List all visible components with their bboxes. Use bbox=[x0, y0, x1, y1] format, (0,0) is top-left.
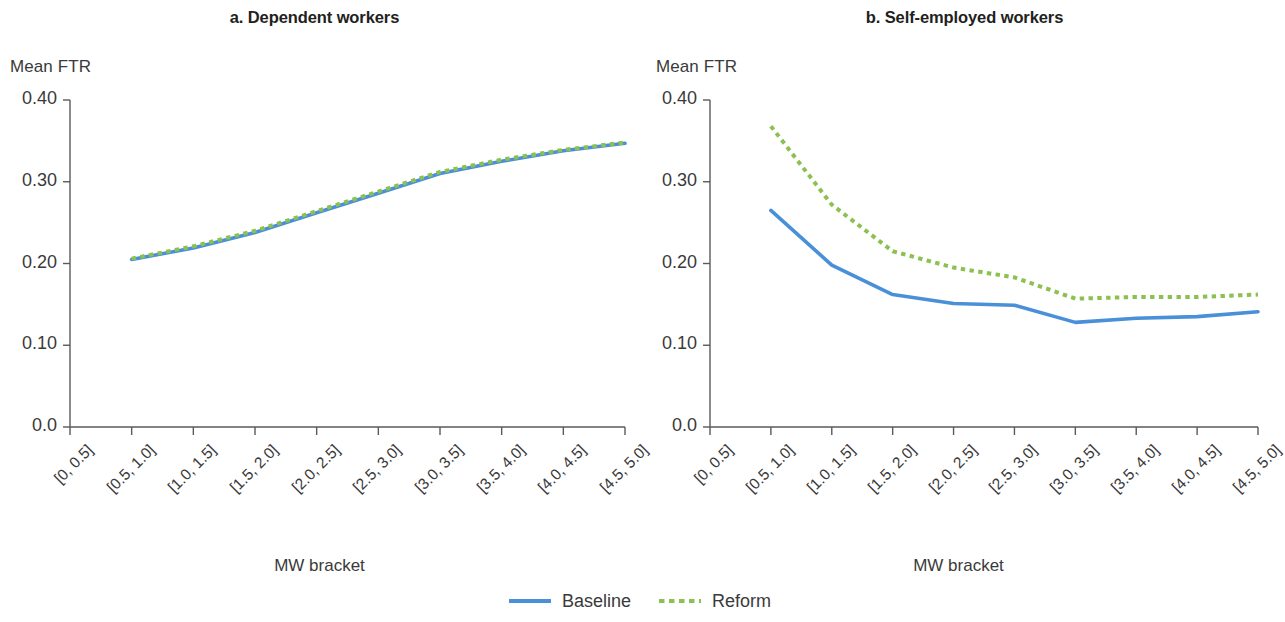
y-tick-label: 0.10 bbox=[0, 333, 57, 354]
y-tick-label: 0.20 bbox=[0, 252, 57, 273]
y-tick-label: 0.40 bbox=[0, 88, 57, 109]
panel-self-employed-workers: b. Self-employed workers Mean FTR MW bra… bbox=[639, 0, 1278, 600]
series-line-reform bbox=[132, 143, 625, 259]
series-line-baseline bbox=[132, 143, 625, 259]
panel-dependent-workers: a. Dependent workers Mean FTR MW bracket… bbox=[0, 0, 639, 600]
legend-item-baseline: Baseline bbox=[507, 592, 631, 610]
legend-item-reform: Reform bbox=[657, 592, 771, 610]
panel-a-x-axis-label: MW bracket bbox=[0, 556, 639, 576]
y-tick-label: 0.0 bbox=[0, 415, 57, 436]
y-tick-label: 0.30 bbox=[635, 170, 697, 191]
chart-legend: Baseline Reform bbox=[0, 592, 1278, 610]
y-tick-label: 0.40 bbox=[635, 88, 697, 109]
legend-label-reform: Reform bbox=[712, 592, 771, 610]
panel-b-x-axis-label: MW bracket bbox=[639, 556, 1278, 576]
panel-b-plot-area bbox=[639, 0, 1278, 600]
legend-reform-dotted-line-icon bbox=[657, 595, 703, 607]
y-tick-label: 0.0 bbox=[635, 415, 697, 436]
series-line-baseline bbox=[771, 210, 1258, 322]
legend-baseline-line-icon bbox=[507, 595, 553, 607]
panel-a-plot-area bbox=[0, 0, 639, 600]
y-tick-label: 0.10 bbox=[635, 333, 697, 354]
y-tick-label: 0.30 bbox=[0, 170, 57, 191]
y-tick-label: 0.20 bbox=[635, 252, 697, 273]
legend-label-baseline: Baseline bbox=[562, 592, 631, 610]
